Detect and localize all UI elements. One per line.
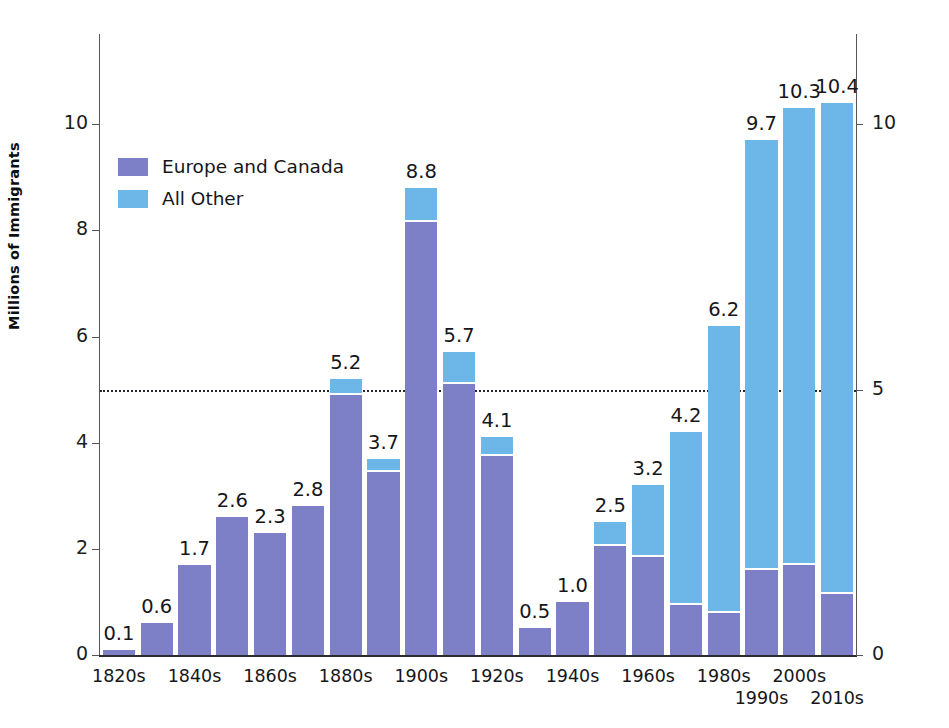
bar-1950s[interactable]	[594, 522, 626, 655]
y-axis-title: Millions of Immigrants	[6, 142, 22, 330]
bar-segment-europe-canada[interactable]	[405, 222, 437, 655]
bar-segment-all-other[interactable]	[783, 108, 815, 564]
bar-segment-europe-canada[interactable]	[141, 623, 173, 655]
right-axis-tick-label: 10	[872, 113, 912, 132]
bar-value-label-1910s: 5.7	[444, 326, 475, 346]
bar-value-label-1920s: 4.1	[481, 411, 512, 431]
bar-1990s[interactable]	[745, 140, 777, 655]
legend-label: All Other	[162, 188, 243, 209]
bar-1880s[interactable]	[330, 379, 362, 655]
bar-value-label-1930s: 0.5	[519, 602, 550, 622]
left-axis-tick-label: 4	[48, 432, 88, 451]
bar-segment-europe-canada[interactable]	[367, 472, 399, 655]
bar-value-label-1980s: 6.2	[708, 300, 739, 320]
plot-area: 0246810 0510 0.10.61.72.62.32.85.23.78.8…	[100, 34, 856, 655]
right-axis-tick	[856, 390, 863, 391]
bar-value-label-1820s: 0.1	[103, 624, 134, 644]
bar-segment-europe-canada[interactable]	[708, 613, 740, 655]
right-axis-line	[856, 34, 857, 655]
left-axis-tick	[92, 337, 99, 338]
bar-value-label-1950s: 2.5	[595, 496, 626, 516]
bar-2000s[interactable]	[783, 108, 815, 655]
bar-segment-all-other[interactable]	[821, 103, 853, 594]
bar-value-label-1870s: 2.8	[292, 480, 323, 500]
bar-1850s[interactable]	[216, 517, 248, 655]
bar-segment-europe-canada[interactable]	[292, 506, 324, 655]
bar-segment-europe-canada[interactable]	[745, 570, 777, 655]
bar-segment-europe-canada[interactable]	[330, 395, 362, 655]
legend-swatch-icon	[118, 158, 148, 176]
bottom-axis-line	[99, 655, 857, 657]
bar-value-label-1880s: 5.2	[330, 353, 361, 373]
bar-1820s[interactable]	[103, 650, 135, 655]
bar-1900s[interactable]	[405, 188, 437, 655]
bar-segment-europe-canada[interactable]	[519, 628, 551, 655]
x-axis-label-2000s: 2000s	[754, 668, 844, 686]
bar-segment-all-other[interactable]	[481, 437, 513, 456]
right-axis-tick-label: 5	[872, 379, 912, 398]
bar-1830s[interactable]	[141, 623, 173, 655]
bar-segment-europe-canada[interactable]	[783, 565, 815, 655]
left-axis-line	[99, 34, 100, 655]
bar-segment-all-other[interactable]	[670, 432, 702, 605]
bar-1890s[interactable]	[367, 459, 399, 655]
bar-segment-europe-canada[interactable]	[216, 517, 248, 655]
bar-segment-europe-canada[interactable]	[556, 602, 588, 655]
bar-1930s[interactable]	[519, 628, 551, 655]
bar-segment-europe-canada[interactable]	[178, 565, 210, 655]
left-axis-tick	[92, 443, 99, 444]
bar-1910s[interactable]	[443, 352, 475, 655]
bar-1960s[interactable]	[632, 485, 664, 655]
bar-1870s[interactable]	[292, 506, 324, 655]
bar-value-label-1940s: 1.0	[557, 576, 588, 596]
bar-segment-all-other[interactable]	[594, 522, 626, 546]
bar-segment-all-other[interactable]	[632, 485, 664, 557]
bar-value-label-1960s: 3.2	[633, 459, 664, 479]
bar-1980s[interactable]	[708, 326, 740, 655]
left-axis-tick-label: 6	[48, 326, 88, 345]
bar-1970s[interactable]	[670, 432, 702, 655]
immigration-bar-chart-figure: Millions of Immigrants 0246810 0510 0.10…	[0, 0, 949, 728]
bar-segment-europe-canada[interactable]	[443, 384, 475, 655]
bar-segment-europe-canada[interactable]	[670, 605, 702, 655]
bar-value-label-1990s: 9.7	[746, 114, 777, 134]
right-axis-tick	[856, 124, 863, 125]
bar-2010s[interactable]	[821, 103, 853, 655]
bar-value-label-1890s: 3.7	[368, 433, 399, 453]
left-axis-tick	[92, 230, 99, 231]
top-caption	[0, 0, 949, 5]
bar-segment-all-other[interactable]	[330, 379, 362, 395]
bar-segment-europe-canada[interactable]	[594, 546, 626, 655]
bar-value-label-2010s: 10.4	[815, 77, 858, 97]
bar-1940s[interactable]	[556, 602, 588, 655]
right-axis-tick-label: 0	[872, 644, 912, 663]
left-axis-tick-label: 8	[48, 219, 88, 238]
bar-segment-all-other[interactable]	[367, 459, 399, 472]
bar-segment-all-other[interactable]	[405, 188, 437, 223]
bar-value-label-1860s: 2.3	[255, 507, 286, 527]
bar-1920s[interactable]	[481, 437, 513, 655]
legend-item-all-other[interactable]: All Other	[118, 188, 344, 209]
left-axis-tick-label: 2	[48, 538, 88, 557]
bar-segment-all-other[interactable]	[708, 326, 740, 613]
bar-value-label-1970s: 4.2	[670, 406, 701, 426]
bar-segment-europe-canada[interactable]	[103, 650, 135, 655]
bar-segment-europe-canada[interactable]	[481, 456, 513, 655]
bar-segment-all-other[interactable]	[745, 140, 777, 570]
bar-value-label-1900s: 8.8	[406, 162, 437, 182]
bar-segment-all-other[interactable]	[443, 352, 475, 384]
x-axis-label-2010s: 2010s	[792, 690, 882, 708]
left-axis-tick	[92, 124, 99, 125]
legend: Europe and CanadaAll Other	[118, 156, 344, 220]
bar-1840s[interactable]	[178, 565, 210, 655]
bar-value-label-1830s: 0.6	[141, 597, 172, 617]
bar-segment-europe-canada[interactable]	[821, 594, 853, 655]
legend-label: Europe and Canada	[162, 156, 344, 177]
legend-item-europe-and-canada[interactable]: Europe and Canada	[118, 156, 344, 177]
reference-line-5-million	[100, 390, 856, 392]
bar-segment-europe-canada[interactable]	[632, 557, 664, 655]
left-axis-tick	[92, 549, 99, 550]
left-axis-tick-label: 10	[48, 113, 88, 132]
bar-segment-europe-canada[interactable]	[254, 533, 286, 655]
bar-1860s[interactable]	[254, 533, 286, 655]
